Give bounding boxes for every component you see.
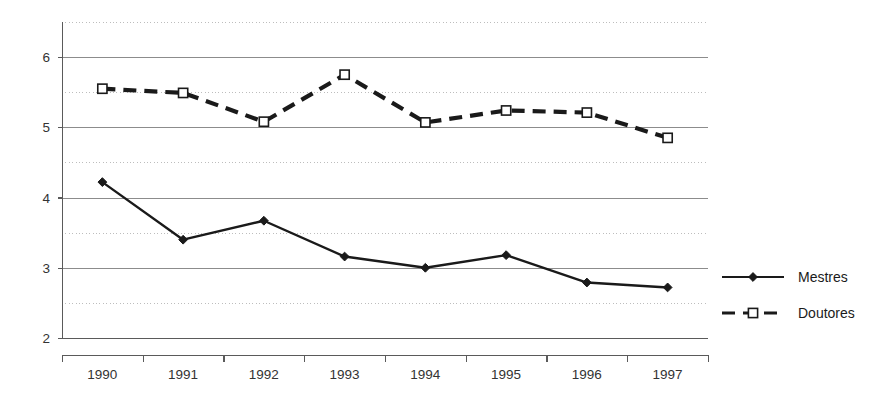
data-point-marker-square (421, 118, 430, 127)
chart-container: 2345619901991199219931994199519961997Mes… (0, 0, 874, 401)
data-point-marker-square (502, 106, 511, 115)
data-point-marker-square (748, 308, 757, 317)
x-tick-label: 1992 (249, 367, 279, 382)
y-tick-label: 4 (42, 191, 50, 206)
legend-label: Doutores (798, 305, 855, 321)
x-tick-label: 1990 (87, 367, 117, 382)
legend-label: Mestres (798, 269, 848, 285)
x-tick-label: 1994 (410, 367, 441, 382)
data-point-marker-square (340, 70, 349, 79)
data-point-marker-square (179, 88, 188, 97)
y-tick-label: 2 (42, 331, 50, 346)
line-chart: 2345619901991199219931994199519961997Mes… (0, 0, 874, 401)
x-tick-label: 1993 (330, 367, 360, 382)
x-tick-label: 1995 (491, 367, 521, 382)
data-point-marker-square (663, 133, 672, 142)
chart-background (0, 0, 874, 401)
data-point-marker-square (259, 117, 268, 126)
data-point-marker-square (582, 108, 591, 117)
x-tick-label: 1996 (572, 367, 602, 382)
y-tick-label: 6 (42, 50, 50, 65)
x-tick-label: 1997 (653, 367, 683, 382)
y-tick-label: 3 (42, 261, 50, 276)
data-point-marker-square (98, 84, 107, 93)
x-tick-label: 1991 (168, 367, 198, 382)
y-tick-label: 5 (42, 120, 50, 135)
